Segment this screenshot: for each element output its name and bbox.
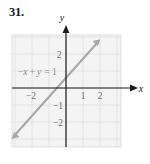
x-tick-label-2: 2 <box>98 91 103 101</box>
equation-annotation: −x+y= 1 <box>18 67 57 77</box>
equation-plus: + <box>30 67 35 77</box>
textbook-figure: 31. <box>0 0 150 164</box>
equation-y-var: y <box>36 67 42 77</box>
equation-x-var: x <box>22 67 28 77</box>
y-axis-label: y <box>59 12 65 23</box>
x-tick-label--2: −2 <box>26 91 36 101</box>
y-tick-label--2: −2 <box>53 118 63 128</box>
y-tick-label--1: −1 <box>53 101 63 111</box>
x-axis-arrowhead <box>130 85 138 92</box>
x-axis-label: x <box>138 83 144 94</box>
x-tick-label-1: 1 <box>81 91 86 101</box>
equation-equals-one: = 1 <box>44 67 57 77</box>
y-tick-label-2: 2 <box>57 50 62 60</box>
y-axis-arrowhead <box>63 25 70 33</box>
coordinate-plane-graph: x y −2 1 2 2 −1 −2 −x+y= 1 <box>0 0 150 164</box>
